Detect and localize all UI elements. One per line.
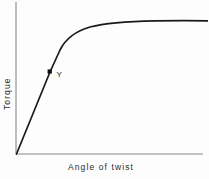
- yield-point-marker: [48, 69, 52, 73]
- y-axis-label: Torque: [2, 77, 12, 110]
- x-axis-label: Angle of twist: [68, 162, 134, 172]
- figure-container: Y Torque Angle of twist: [0, 0, 208, 179]
- torque-curve: [17, 21, 209, 154]
- torque-angle-chart: Y Torque Angle of twist: [0, 0, 208, 179]
- y-axis-label-group: Torque: [2, 77, 12, 110]
- yield-point-label: Y: [57, 70, 63, 79]
